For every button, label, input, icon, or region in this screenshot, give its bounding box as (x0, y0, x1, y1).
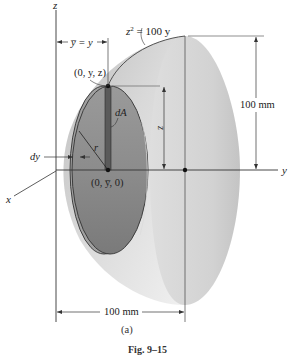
height-dim-label: 100 mm (240, 99, 275, 110)
y-axis-label: y (281, 164, 287, 176)
dy-label: dy (30, 151, 40, 162)
strip-dA (105, 87, 111, 170)
figure-caption: Fig. 9–15 (128, 344, 167, 355)
point-top-label: (0, y, z) (74, 67, 106, 79)
point-center-label: (0, y̅, 0) (91, 177, 124, 189)
ybar-label: y̅ = y (70, 37, 93, 48)
x-axis-label: x (5, 193, 11, 205)
equation-label: z2 = 100 y (125, 25, 171, 37)
paraboloid-diagram: z y x z2 = 100 y y̅ = y (0, y, z) (0, y̅… (0, 0, 300, 361)
point-center (106, 168, 110, 172)
z-axis-label: z (52, 0, 58, 11)
dA-label: dA (115, 107, 127, 118)
paraboloid-end-face (150, 36, 240, 305)
z-strip-label: z (156, 125, 167, 130)
point-end-center (183, 168, 187, 172)
sublabel: (a) (121, 324, 133, 336)
length-dim-label: 100 mm (104, 306, 139, 317)
x-axis (14, 171, 56, 196)
